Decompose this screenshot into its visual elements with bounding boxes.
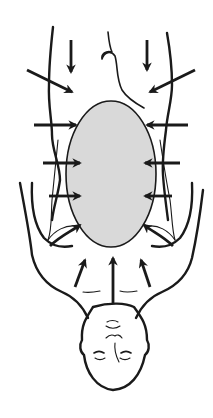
arrow-icon [75,260,85,287]
illustration-canvas [0,0,213,418]
infant-head [80,304,148,390]
infant-abdominal-pressure-illustration [0,0,213,418]
arrow-icon [141,260,150,287]
chest-marks [83,291,137,292]
arrow-icon [144,225,173,246]
arrow-icon [50,225,80,246]
